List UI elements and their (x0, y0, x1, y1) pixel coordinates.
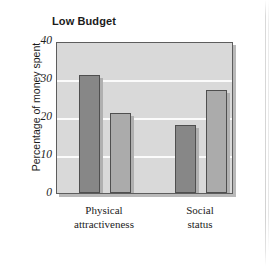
y-tick-label: 20 (18, 110, 52, 122)
bar (175, 125, 196, 193)
x-category-label: Physicalattractiveness (54, 204, 154, 231)
bar (110, 113, 131, 193)
y-tick-label: 0 (18, 186, 52, 198)
x-category-label-line: attractiveness (54, 218, 154, 232)
x-category-label-line: Social (150, 204, 250, 218)
y-tick-label: 40 (18, 34, 52, 46)
bar-chart-figure: Low Budget Percentage of money spent 010… (0, 0, 271, 266)
x-category-label-line: status (150, 218, 250, 232)
y-axis-tick-labels: 010203040 (14, 0, 52, 266)
y-tick-label: 10 (18, 148, 52, 160)
x-category-label-line: Physical (54, 204, 154, 218)
bar (79, 75, 100, 193)
bar (206, 90, 227, 193)
chart-title: Low Budget (52, 15, 116, 27)
x-category-label: Socialstatus (150, 204, 250, 231)
plot-area (56, 42, 233, 194)
y-tick-label: 30 (18, 72, 52, 84)
